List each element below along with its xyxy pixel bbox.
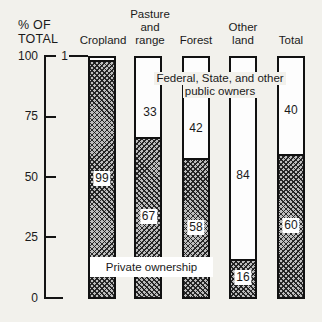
y-tick-50 [44,176,56,178]
y-tick-label-50: 50 [0,171,38,183]
stacked-bar-chart: % OF TOTAL 100 75 50 25 0 Cropland Pastu… [0,0,322,322]
private-ownership-annotation: Private ownership [90,257,213,277]
value-private-cropland: 99 [93,171,110,186]
y-tick-label-0: 0 [0,292,38,304]
col-label-other-land: Other land [229,21,258,47]
public-owners-annotation-line2: public owners [183,85,257,98]
y-tick-label-100: 100 [0,50,38,62]
col-label-total: Total [279,34,303,47]
value-public-pasture-range: 33 [143,105,156,120]
public-owners-annotation-line1: Federal, State, and other [154,72,285,85]
y-tick-label-75: 75 [0,110,38,122]
public-owners-annotation: Federal, State, and other public owners [120,72,320,98]
value-private-pasture-range: 67 [140,209,157,224]
y-axis-title: % OF TOTAL [18,19,58,46]
value-private-forest: 58 [187,220,204,235]
value-private-other-land: 16 [234,270,251,285]
col-label-forest: Forest [180,34,213,47]
value-public-forest: 42 [189,121,202,136]
col-label-pasture-range: Pasture and range [130,8,170,47]
y-tick-75 [44,116,56,118]
y-tick-0 [44,297,63,299]
value-public-total: 40 [284,103,297,118]
value-public-other-land: 84 [236,168,249,183]
value-public-cropland: 1 [56,50,68,62]
y-tick-25 [44,236,56,238]
cropland-leader-line [69,55,88,57]
y-tick-100 [44,55,56,57]
col-label-cropland: Cropland [80,34,127,47]
y-tick-label-25: 25 [0,231,38,243]
value-private-total: 60 [282,218,299,233]
